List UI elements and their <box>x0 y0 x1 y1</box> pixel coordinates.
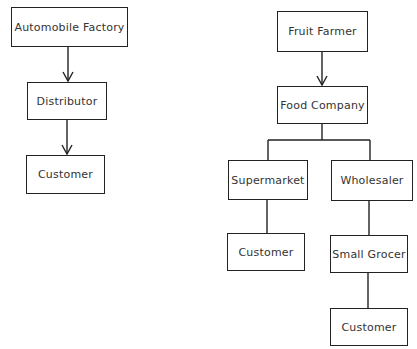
node-customer-grocer: Customer <box>330 308 408 346</box>
node-food-company: Food Company <box>277 86 368 124</box>
node-label: Small Grocer <box>332 248 405 261</box>
node-automobile-factory: Automobile Factory <box>11 7 128 47</box>
node-supermarket: Supermarket <box>228 160 308 200</box>
node-label: Fruit Farmer <box>288 25 357 38</box>
node-wholesaler: Wholesaler <box>331 160 413 201</box>
node-small-grocer: Small Grocer <box>330 235 408 273</box>
node-fruit-farmer: Fruit Farmer <box>277 11 368 52</box>
node-label: Wholesaler <box>340 174 403 187</box>
node-label: Automobile Factory <box>14 21 124 34</box>
node-label: Supermarket <box>231 174 304 187</box>
node-distributor: Distributor <box>27 82 107 120</box>
node-label: Customer <box>38 168 93 181</box>
node-label: Distributor <box>37 95 98 108</box>
node-label: Food Company <box>280 99 365 112</box>
node-label: Customer <box>341 321 396 334</box>
node-customer-auto: Customer <box>26 155 105 194</box>
node-customer-supermarket: Customer <box>227 233 305 271</box>
node-label: Customer <box>238 246 293 259</box>
